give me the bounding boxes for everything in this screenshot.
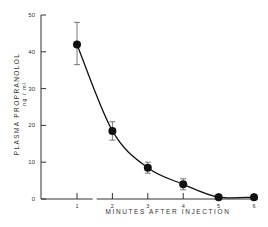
y-tick-label: 40 [28,49,35,55]
y-tick-label: 50 [28,12,35,18]
data-point-marker [179,180,187,188]
data-point-marker [215,193,223,201]
chart-container: 01020304050123456 MINUTES AFTER INJECTIO… [0,0,268,227]
data-points [73,22,258,201]
line-chart: 01020304050123456 MINUTES AFTER INJECTIO… [0,0,268,227]
fitted-curve [77,44,254,198]
data-point-marker [250,193,258,201]
axes: 01020304050123456 [28,12,258,209]
data-point-marker [108,127,116,135]
y-tick-label: 10 [28,159,35,165]
x-axis-label: MINUTES AFTER INJECTION [106,208,231,215]
data-point-marker [144,164,152,172]
x-tick-label: 6 [252,203,255,209]
y-axis-label: PLASMA PROPRANOLOL [13,53,20,156]
x-tick-label: 1 [75,203,78,209]
y-tick-label: 20 [28,122,35,128]
y-tick-label: 0 [32,196,36,202]
curve-path [77,44,254,198]
y-tick-label: 30 [28,86,35,92]
y-axis-units: ng / ml [21,82,27,106]
data-point-marker [73,40,81,48]
